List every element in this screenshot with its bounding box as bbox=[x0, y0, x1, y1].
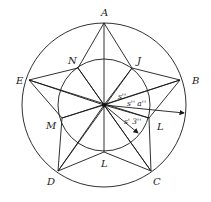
center-point bbox=[102, 103, 106, 107]
angle-label-top: s'' bbox=[118, 92, 126, 101]
label-m: M bbox=[45, 120, 57, 131]
label-l-bottom: L bbox=[100, 158, 108, 169]
center-to-vertex-lines bbox=[29, 23, 180, 171]
angle-label-middle: s'' a'' bbox=[127, 99, 146, 108]
label-e: E bbox=[15, 75, 24, 86]
star-outline bbox=[29, 23, 180, 171]
label-j: J bbox=[135, 55, 142, 66]
label-n: N bbox=[67, 55, 78, 66]
label-a: A bbox=[100, 7, 108, 18]
label-l-right: L bbox=[156, 121, 164, 132]
angle-label-bottom: s' 3'' bbox=[124, 117, 141, 126]
label-b: B bbox=[191, 75, 199, 86]
label-c: C bbox=[153, 176, 161, 187]
label-d: D bbox=[46, 176, 55, 187]
star-pentagon-diagram: A B C D E N J M L L s'' s'' a'' s' 3'' bbox=[0, 0, 211, 202]
